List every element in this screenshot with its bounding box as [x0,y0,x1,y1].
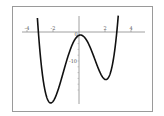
x-tick-label: -2 [51,25,56,31]
x-tick-label: 2 [103,25,106,31]
chart-plot: -4-2024-10 [0,0,164,116]
x-tick-label: -4 [25,25,30,31]
x-tick-label: 4 [129,25,132,31]
y-tick-label: -10 [69,58,77,64]
